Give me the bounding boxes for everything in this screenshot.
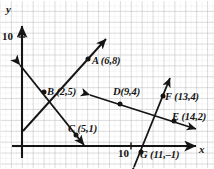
- plot-canvas: [0, 0, 214, 169]
- coordinate-plane-figure: y x 10 10 A (6,8) B (2,5) C (5,1) D(9,4)…: [0, 0, 214, 169]
- axis-label-x: x: [199, 144, 205, 155]
- tick-label-y-10: 10: [2, 31, 13, 42]
- point-A-dot: [86, 57, 91, 62]
- point-label-D: D(9,4): [113, 87, 140, 98]
- grid-major: [1, 1, 214, 168]
- point-label-G: G (11,–1): [140, 150, 179, 161]
- point-label-A: A (6,8): [92, 56, 120, 67]
- point-D-dot: [118, 102, 123, 107]
- axis-label-y: y: [6, 4, 11, 15]
- point-label-B: B (2,5): [47, 87, 76, 98]
- point-label-E: E (14,2): [172, 112, 206, 123]
- point-B-dot: [42, 90, 47, 95]
- point-label-F: F (13,4): [165, 92, 199, 103]
- tick-label-x-10: 10: [118, 148, 129, 159]
- point-label-C: C (5,1): [68, 124, 97, 135]
